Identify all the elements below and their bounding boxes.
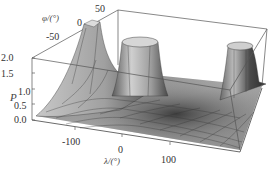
x-tick-label: 100: [161, 155, 176, 165]
surface-plot-canvas: [0, 0, 274, 170]
y-tick-label: 50: [95, 4, 105, 14]
z-tick-label: 1.5: [1, 69, 14, 79]
x-axis-label: λ/(°): [104, 157, 120, 166]
peak-middle: [112, 42, 168, 96]
x-tick-label: 0: [118, 145, 123, 155]
x-tick-label: -100: [62, 137, 80, 147]
y-axis-label: φ/(°): [42, 14, 59, 23]
z-tick-label: 0.0: [14, 115, 27, 125]
y-tick-label: -50: [46, 32, 59, 42]
z-tick-label: 2.0: [1, 53, 14, 63]
z-tick-label: 1.0: [18, 87, 31, 97]
z-axis-ticks: [32, 58, 35, 120]
z-axis-label: P: [10, 92, 17, 103]
y-tick-label: 0: [77, 18, 82, 28]
